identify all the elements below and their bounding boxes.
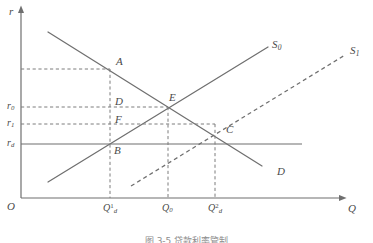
point-label-d: D (115, 96, 123, 107)
supply-curve-s1 (131, 55, 345, 186)
x-tick-qd1: Q1d (103, 203, 117, 214)
point-label-a: A (116, 56, 123, 67)
point-label-c: C (226, 124, 233, 135)
figure-caption: 图 3-5 贷款利率管制 (0, 234, 373, 243)
y-axis-label: r (9, 6, 13, 17)
x-tick-qd2-sub: d (219, 207, 222, 214)
point-label-f: F (115, 114, 122, 125)
x-tick-qd2: Q2d (208, 203, 222, 214)
x-tick-q0-sub: 0 (169, 206, 172, 213)
demand-curve (48, 32, 262, 166)
curve-label-supply1: S1 (350, 45, 359, 57)
point-label-e: E (169, 92, 176, 103)
y-tick-r0-sub: 0 (11, 104, 14, 111)
x-axis-label: Q (348, 203, 356, 214)
y-tick-rd-sub: d (11, 141, 14, 148)
point-label-b: B (114, 145, 121, 156)
x-tick-q0: Q0 (162, 203, 173, 214)
y-tick-r0: r0 (7, 101, 14, 112)
diagram-canvas (0, 0, 373, 243)
origin-label: O (7, 201, 15, 212)
curve-label-supply0: S0 (272, 39, 281, 51)
y-tick-rd: rd (7, 138, 14, 149)
supply-curve-s0 (48, 47, 268, 182)
curve-label-supply0-base: S (272, 38, 278, 50)
curve-label-supply0-sub: 0 (278, 43, 282, 52)
curve-label-supply1-sub: 1 (356, 49, 360, 58)
y-tick-r1-sub: 1 (11, 121, 14, 128)
figure-container: r Q O r0 r1 rd Q1d Q0 Q2d D S0 S1 A D E … (0, 0, 373, 243)
y-tick-r1: r1 (7, 118, 14, 129)
x-tick-qd1-sub: d (114, 207, 117, 214)
curve-label-supply1-base: S (350, 44, 356, 56)
curve-label-demand: D (277, 166, 285, 177)
